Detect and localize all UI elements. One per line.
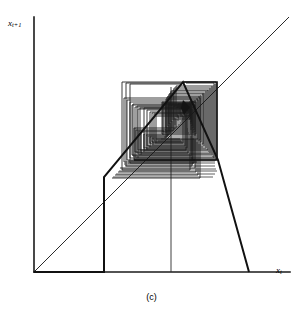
cobweb-orbit	[112, 82, 217, 178]
y-axis-label-sub: t+1	[12, 21, 21, 28]
cobweb-plot	[0, 0, 303, 317]
figure-caption: (c)	[0, 292, 303, 302]
identity-line	[34, 17, 289, 272]
figure-container: xt+1 xt (c)	[0, 0, 303, 317]
y-axis-label: xt+1	[8, 19, 21, 29]
x-axis-label: xt	[276, 266, 282, 276]
x-axis-label-sub: t	[280, 268, 282, 275]
